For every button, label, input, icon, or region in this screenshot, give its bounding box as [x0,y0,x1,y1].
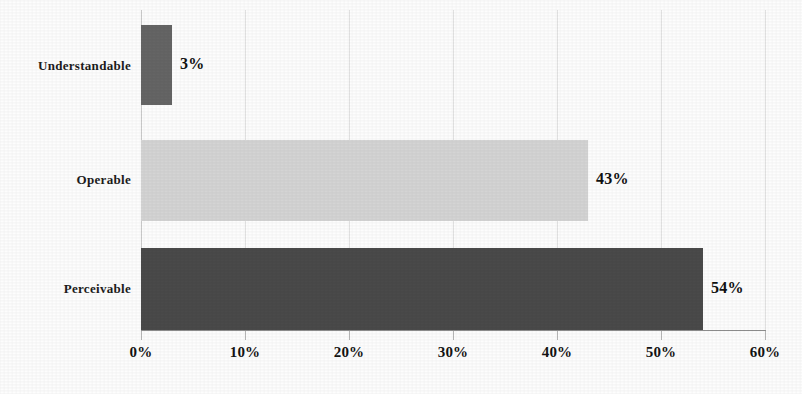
gridline-60 [765,10,766,330]
y-axis-labels: Understandable Operable Perceivable [0,0,131,394]
bar-operable[interactable] [141,140,588,221]
category-label-operable: Operable [77,172,131,188]
bar-perceivable[interactable] [141,248,703,330]
bar-chart: Understandable Operable Perceivable 3% 4… [0,0,802,394]
x-axis-tick-labels: 0% 10% 20% 30% 40% 50% 60% [0,344,802,374]
xtick-label-40: 40% [542,344,573,361]
tick-50 [661,331,662,340]
tick-30 [453,331,454,340]
bar-understandable[interactable] [141,25,172,105]
category-label-perceivable: Perceivable [64,281,131,297]
value-label-perceivable: 54% [711,279,744,297]
tick-10 [245,331,246,340]
xtick-label-50: 50% [646,344,677,361]
xtick-label-60: 60% [750,344,781,361]
value-label-understandable: 3% [180,55,204,73]
category-label-understandable: Understandable [38,58,131,74]
tick-60 [765,331,766,340]
xtick-label-0: 0% [130,344,153,361]
plot-area [141,10,765,330]
xtick-label-20: 20% [334,344,365,361]
xtick-label-30: 30% [438,344,469,361]
tick-40 [557,331,558,340]
tick-0 [141,331,142,340]
xtick-label-10: 10% [230,344,261,361]
tick-20 [349,331,350,340]
value-label-operable: 43% [596,170,629,188]
